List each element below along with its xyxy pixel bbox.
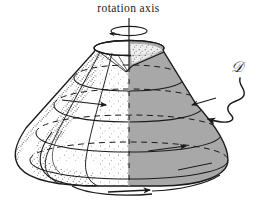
rotation-axis-label: rotation axis [0, 2, 257, 14]
region-label-pointer [208, 78, 244, 122]
shaded-region-D [129, 40, 239, 190]
rotation-direction-arrowhead [110, 34, 120, 35]
stipple-patch-mid [96, 60, 129, 186]
region-D-label: 𝒟 [231, 58, 243, 76]
squiggle-pointer-path [208, 78, 244, 122]
contour-5-bottom-arrow [108, 190, 150, 192]
revolution-solid-figure: rotation axis 𝒟 [0, 0, 257, 205]
contour-2-arrow-right [192, 98, 216, 105]
figure-canvas [0, 0, 257, 205]
